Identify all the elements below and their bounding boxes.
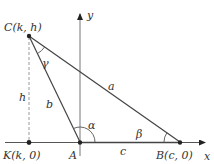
angle-alpha-label: α [88,119,96,132]
point-a [78,140,82,144]
side-a [29,36,180,142]
point-b-label: B(c, 0) [155,149,193,162]
height-h-label: h [19,91,26,104]
angle-beta-arc [164,133,167,142]
point-a-label: A [68,149,77,162]
x-axis-label: x [204,150,211,163]
side-c-label: c [120,145,126,158]
point-k [27,140,32,145]
side-b-label: b [46,98,53,111]
point-k-label: K(k, 0) [2,149,40,162]
angle-beta-label: β [135,128,142,141]
y-axis-label: y [86,9,94,22]
side-b [29,36,80,142]
side-a-label: a [108,80,115,93]
point-c-label: C(k, h) [4,21,42,34]
point-c [27,34,31,38]
angle-gamma-label: γ [42,57,49,70]
angle-gamma-arc [38,47,45,54]
triangle-diagram: C(k, h) y x γ a b h α β c A B(c, 0) K(k,… [0,0,214,164]
point-b [178,140,182,144]
